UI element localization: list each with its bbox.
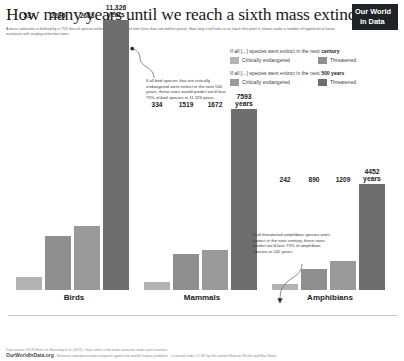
bar-value-unit: years <box>106 11 126 18</box>
bar-value-label: 7593years <box>235 93 253 108</box>
bar-amphibians-ce-500[interactable]: 1209 <box>330 184 356 290</box>
annotation-birds: If all bird species that are critically … <box>146 78 232 100</box>
bar-value-label: 2265 <box>51 12 66 19</box>
x-axis-baseline <box>8 315 398 316</box>
bar-value-label: 1209 <box>336 176 351 183</box>
bar-value-label: 890 <box>308 176 319 183</box>
footer-brand[interactable]: OurWorldInData.org <box>6 353 54 358</box>
bar-rect[interactable] <box>359 184 385 290</box>
bar-value-label: 537 <box>23 12 34 19</box>
chart-footer: Data source: IUCN Red List; Barnosky et … <box>6 348 398 359</box>
bars-mammals: 334 1519 1672 7593years <box>144 109 260 290</box>
chart-plot-area: 537 2265 2683 11,326years Birds <box>0 0 404 336</box>
bar-group-birds: 537 2265 2683 11,326years Birds <box>16 20 132 290</box>
bar-rect[interactable] <box>301 269 327 290</box>
bar-rect[interactable] <box>74 226 100 290</box>
bar-rect[interactable] <box>144 282 170 290</box>
bar-value-unit: years <box>363 175 381 182</box>
bar-birds-ce-century[interactable]: 537 <box>16 20 42 290</box>
bar-rect[interactable] <box>16 277 42 290</box>
bar-birds-th-500[interactable]: 11,326years <box>103 20 129 290</box>
group-label-mammals: Mammals <box>144 293 260 302</box>
footer-brand-line: OurWorldInData.org Research and data to … <box>6 353 398 359</box>
bar-rect[interactable] <box>231 109 257 290</box>
bar-value-label: 11,326years <box>106 4 126 19</box>
bar-value-label: 4452years <box>363 168 381 183</box>
bar-value-label: 242 <box>279 176 290 183</box>
bar-value-unit: years <box>235 100 253 107</box>
bar-value-label: 2683 <box>80 12 95 19</box>
annotation-amphibians: If all threatened amphibian species went… <box>253 232 333 254</box>
bar-value-number: 4452 <box>364 168 379 175</box>
bar-rect[interactable] <box>103 20 129 290</box>
bar-value-label: 1672 <box>208 101 223 108</box>
footer-note: Research and data to make progress again… <box>57 354 169 359</box>
bar-birds-th-century[interactable]: 2265 <box>45 20 71 290</box>
bar-rect[interactable] <box>202 250 228 290</box>
bar-mammals-ce-500[interactable]: 1672 <box>202 109 228 290</box>
bar-rect[interactable] <box>272 284 298 290</box>
bar-value-label: 334 <box>151 101 162 108</box>
bar-value-label: 1519 <box>179 101 194 108</box>
group-label-birds: Birds <box>16 293 132 302</box>
bar-birds-ce-500[interactable]: 2683 <box>74 20 100 290</box>
bar-mammals-ce-century[interactable]: 334 <box>144 109 170 290</box>
bar-mammals-th-century[interactable]: 1519 <box>173 109 199 290</box>
bar-rect[interactable] <box>173 254 199 290</box>
bar-rect[interactable] <box>45 236 71 290</box>
footer-license: Licensed under CC-BY by the authors Hann… <box>171 354 277 359</box>
chart-page: How many years until we reach a sixth ma… <box>0 0 404 361</box>
group-label-amphibians: Amphibians <box>272 293 388 302</box>
bar-mammals-th-500[interactable]: 7593years <box>231 109 257 290</box>
bars-birds: 537 2265 2683 11,326years <box>16 20 132 290</box>
bar-value-number: 7593 <box>236 93 251 100</box>
bar-rect[interactable] <box>330 261 356 290</box>
bar-amphibians-th-500[interactable]: 4452years <box>359 184 385 290</box>
bar-group-mammals: 334 1519 1672 7593years Mammals <box>144 109 260 290</box>
bar-value-number: 11,326 <box>106 4 126 11</box>
